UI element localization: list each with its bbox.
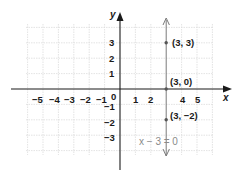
y-tick: 3 bbox=[109, 37, 114, 48]
y-tick: −2 bbox=[104, 117, 115, 128]
x-axis bbox=[11, 86, 232, 93]
x-tick: −5 bbox=[32, 94, 44, 105]
y-tick: −1 bbox=[104, 101, 116, 112]
x-tick: −2 bbox=[80, 94, 91, 105]
coordinate-plane: y x −5 −4 −3 −2 −1 0 1 2 4 5 3 2 1 −1 −2… bbox=[0, 0, 243, 179]
x-tick: −4 bbox=[49, 94, 61, 105]
y-axis-label: y bbox=[109, 9, 116, 20]
equation-label: x − 3 = 0 bbox=[139, 136, 178, 147]
y-tick: 1 bbox=[109, 68, 115, 79]
point-label-3-neg2: (3, −2) bbox=[170, 110, 198, 121]
x-tick: 2 bbox=[148, 94, 153, 105]
point-3-3 bbox=[165, 41, 168, 44]
point-3-0 bbox=[165, 87, 168, 90]
y-tick: −3 bbox=[104, 132, 115, 143]
point-label-3-0: (3, 0) bbox=[170, 76, 192, 87]
x-axis-label: x bbox=[222, 92, 229, 103]
x-tick: 5 bbox=[195, 94, 201, 105]
x-tick: −3 bbox=[64, 94, 75, 105]
point-3-neg2 bbox=[165, 118, 168, 121]
x-tick-labels: −5 −4 −3 −2 −1 0 1 2 4 5 bbox=[32, 91, 201, 105]
y-tick: 2 bbox=[109, 53, 114, 64]
point-label-3-3: (3, 3) bbox=[172, 37, 194, 48]
y-axis-arrow-icon bbox=[117, 12, 124, 21]
x-tick: 4 bbox=[180, 94, 186, 105]
x-tick: 1 bbox=[133, 94, 139, 105]
y-axis bbox=[117, 12, 124, 170]
y-tick-labels: 3 2 1 −1 −2 −3 bbox=[104, 37, 116, 143]
